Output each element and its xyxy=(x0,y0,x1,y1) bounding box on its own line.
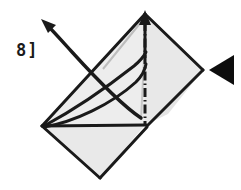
origami-diagram: 8] xyxy=(0,0,241,190)
upper-right-panel xyxy=(145,14,203,125)
push-arrow-triangle xyxy=(209,55,234,85)
origami-diagram-canvas: 8] xyxy=(0,0,241,190)
step-label: 8] xyxy=(16,40,38,60)
lower-panel xyxy=(42,125,145,178)
